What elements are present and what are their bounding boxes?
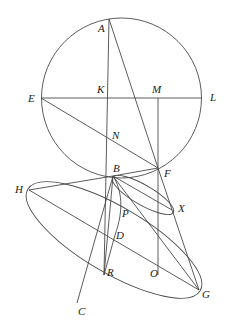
curve-BD <box>104 176 121 275</box>
label-R: R <box>106 266 114 278</box>
label-X: X <box>177 202 186 214</box>
label-M: M <box>151 83 162 95</box>
label-O: O <box>150 267 158 279</box>
label-N: N <box>111 129 120 141</box>
line-AF <box>109 19 158 168</box>
label-K: K <box>96 83 105 95</box>
line-EF <box>41 98 158 168</box>
label-A: A <box>97 22 105 34</box>
label-D: D <box>115 229 124 241</box>
label-B: B <box>113 162 120 174</box>
label-F: F <box>163 167 171 179</box>
line-FG <box>158 168 199 290</box>
label-P: P <box>121 207 129 219</box>
label-C: C <box>78 305 86 317</box>
label-E: E <box>27 92 35 104</box>
label-L: L <box>209 91 216 103</box>
line-HB <box>29 176 113 190</box>
geometric-diagram: A E K M L N B F H X P D R O G C <box>0 0 231 331</box>
label-H: H <box>14 183 24 195</box>
line-BX <box>113 176 172 210</box>
label-G: G <box>202 288 210 300</box>
